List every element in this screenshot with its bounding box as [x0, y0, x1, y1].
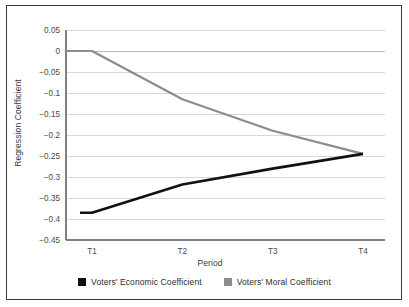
y-axis-tick-label: 0.05 [44, 26, 60, 35]
y-axis-tick-label: −0.25 [39, 152, 60, 161]
legend-label-moral: Voters' Moral Coefficient [237, 277, 331, 287]
x-axis-tick-label: T2 [178, 247, 188, 256]
legend-item[interactable]: Voters' Moral Coefficient [224, 277, 331, 287]
chart-figure: 0.050−0.05−0.1−0.15−0.2−0.25−0.3−0.35−0.… [0, 0, 409, 307]
data-series-line [66, 51, 363, 154]
y-axis-tick-label: −0.3 [44, 173, 61, 182]
y-axis-tick-label: −0.1 [44, 89, 61, 98]
y-axis-tick-label: −0.45 [39, 236, 60, 245]
y-axis-tick-label: −0.2 [44, 131, 61, 140]
legend-item[interactable]: Voters' Economic Coefficient [78, 277, 202, 287]
y-axis-tick-label: −0.15 [39, 110, 60, 119]
data-series-line [80, 154, 363, 213]
chart-legend: Voters' Economic Coefficient Voters' Mor… [0, 277, 409, 287]
y-axis-tick-label: −0.05 [39, 68, 60, 77]
x-axis-title: Period [180, 258, 240, 268]
x-axis-tick-label: T3 [268, 247, 278, 256]
x-axis-tick-label: T1 [87, 247, 97, 256]
legend-label-economic: Voters' Economic Coefficient [91, 277, 202, 287]
y-axis-tick-label: −0.4 [44, 215, 61, 224]
y-axis-title: Regression Coefficient [13, 68, 23, 178]
y-axis-tick-label: −0.35 [39, 194, 60, 203]
x-axis-tick-label: T4 [358, 247, 368, 256]
y-axis-tick-label: 0 [55, 47, 60, 56]
legend-swatch-moral [224, 278, 232, 286]
legend-swatch-economic [78, 278, 86, 286]
